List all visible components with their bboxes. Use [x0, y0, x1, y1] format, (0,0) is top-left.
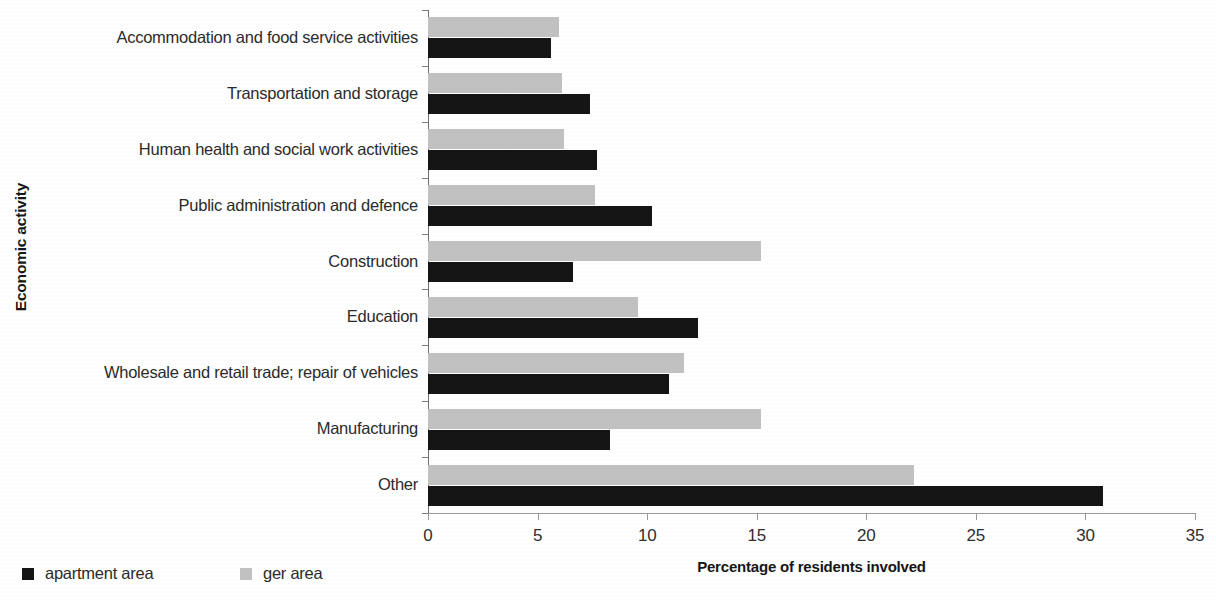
bar-apartment-area [428, 430, 610, 450]
horizontal-bar-chart: Economic activity Accommodation and food… [0, 0, 1216, 600]
bar-apartment-area [428, 318, 698, 338]
y-axis-tick [422, 289, 428, 290]
bar-apartment-area [428, 486, 1103, 506]
bar-ger-area [428, 185, 595, 205]
x-axis-tick [1085, 513, 1086, 520]
y-axis-category-label: Accommodation and food service activitie… [20, 28, 418, 47]
bar-ger-area [428, 353, 684, 373]
bar-ger-area [428, 129, 564, 149]
y-axis-tick [422, 234, 428, 235]
x-axis-title: Percentage of residents involved [428, 558, 1195, 575]
y-axis-tick [422, 178, 428, 179]
x-axis-tick [866, 513, 867, 520]
y-axis-category-labels: Accommodation and food service activitie… [20, 10, 418, 513]
y-axis-tick [422, 66, 428, 67]
x-axis-tick [1195, 513, 1196, 520]
y-axis-category-label: Education [20, 307, 418, 326]
y-axis-tick [422, 401, 428, 402]
bar-ger-area [428, 297, 638, 317]
x-axis-tick [428, 513, 429, 520]
legend-item[interactable]: ger area [240, 564, 322, 583]
x-axis-tick-label: 25 [946, 526, 1006, 546]
bar-apartment-area [428, 374, 669, 394]
x-axis-tick-label: 35 [1165, 526, 1216, 546]
bar-apartment-area [428, 38, 551, 58]
x-axis-line [428, 513, 1195, 514]
x-axis-tick [647, 513, 648, 520]
x-axis-tick-label: 5 [508, 526, 568, 546]
bar-ger-area [428, 465, 914, 485]
y-axis-category-label: Manufacturing [20, 419, 418, 438]
bar-apartment-area [428, 262, 573, 282]
y-axis-category-label: Human health and social work activities [20, 140, 418, 159]
x-axis-tick [538, 513, 539, 520]
y-axis-tick [422, 457, 428, 458]
bar-apartment-area [428, 206, 652, 226]
y-axis-category-label: Construction [20, 252, 418, 271]
x-axis-tick [757, 513, 758, 520]
plot-area: 05101520253035 [428, 10, 1195, 513]
y-axis-category-label: Public administration and defence [20, 196, 418, 215]
x-axis-tick-label: 15 [727, 526, 787, 546]
legend-label: ger area [263, 564, 322, 583]
bar-ger-area [428, 409, 761, 429]
gray-square-icon [240, 568, 252, 580]
x-axis-tick-label: 20 [836, 526, 896, 546]
y-axis-category-label: Other [20, 475, 418, 494]
legend-label: apartment area [45, 564, 153, 583]
y-axis-tick [422, 345, 428, 346]
y-axis-tick [422, 513, 428, 514]
legend-item[interactable]: apartment area [22, 564, 153, 583]
y-axis-category-label: Wholesale and retail trade; repair of ve… [20, 363, 418, 382]
y-axis-category-label: Transportation and storage [20, 84, 418, 103]
bar-apartment-area [428, 94, 590, 114]
y-axis-tick [422, 122, 428, 123]
y-axis-tick [422, 10, 428, 11]
x-axis-tick-label: 0 [398, 526, 458, 546]
x-axis-tick-label: 30 [1055, 526, 1115, 546]
bar-ger-area [428, 17, 559, 37]
x-axis-tick-label: 10 [617, 526, 677, 546]
black-square-icon [22, 568, 34, 580]
bar-ger-area [428, 241, 761, 261]
x-axis-tick [976, 513, 977, 520]
bar-apartment-area [428, 150, 597, 170]
bar-ger-area [428, 73, 562, 93]
